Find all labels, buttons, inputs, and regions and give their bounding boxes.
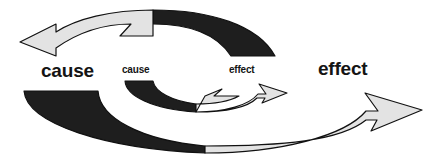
inner-arrow-light-bottomright [196, 84, 287, 112]
outer-arrow-light-bottomright [205, 93, 422, 153]
label-effect-outer: effect [318, 59, 367, 78]
label-effect-inner: effect [229, 65, 254, 75]
cause-effect-cycle-diagram: cause cause effect effect [0, 0, 439, 156]
label-cause-outer: cause [41, 61, 94, 80]
outer-arrow-light-topleft [20, 10, 153, 56]
label-cause-inner: cause [122, 65, 149, 75]
inner-arc-dark-bottomleft [125, 81, 196, 112]
